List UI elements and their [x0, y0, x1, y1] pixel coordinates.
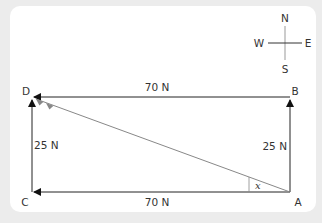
force-top-label: 70 N — [145, 81, 170, 93]
compass-north-label: N — [281, 12, 289, 24]
point-a-label: A — [294, 196, 302, 208]
point-b-label: B — [291, 85, 298, 97]
compass-east-label: E — [305, 37, 312, 49]
compass-icon: N S W E — [254, 12, 312, 75]
compass-south-label: S — [282, 63, 289, 75]
resultant-vector-a-to-d — [34, 99, 290, 192]
force-bottom-label: 70 N — [145, 196, 170, 208]
force-right-label: 25 N — [262, 140, 287, 152]
compass-west-label: W — [254, 37, 265, 49]
point-c-label: C — [21, 196, 28, 208]
angle-x-label: x — [255, 180, 261, 191]
point-d-label: D — [22, 85, 30, 97]
force-diagram: N S W E x D B C A 70 N 70 N 25 N 25 N — [0, 0, 322, 223]
force-left-label: 25 N — [34, 139, 59, 151]
